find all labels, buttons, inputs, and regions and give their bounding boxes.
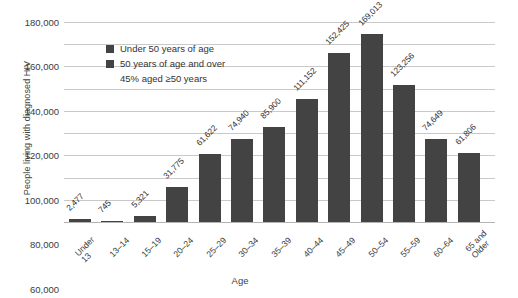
bar xyxy=(263,127,285,222)
bar xyxy=(393,85,415,222)
x-axis-line xyxy=(64,222,495,223)
bar-group: 61,806 xyxy=(453,22,485,222)
x-axis-tick-text: 60–64 xyxy=(432,236,456,260)
bar xyxy=(199,154,221,222)
bar-value-label: 61,622 xyxy=(194,122,219,147)
bar-group: 111,152 xyxy=(291,22,323,222)
x-axis-tick-label: 35–39 xyxy=(258,226,290,244)
y-axis-tick-label: 120,000 xyxy=(25,150,59,161)
bar-group: 152,425 xyxy=(323,22,355,222)
y-axis-tick-label: 80,000 xyxy=(30,239,59,250)
x-axis-tick-label: 55–59 xyxy=(388,226,420,244)
x-axis-tick-text: 50–54 xyxy=(367,236,391,260)
y-axis-tick-label: 160,000 xyxy=(25,61,59,72)
bar xyxy=(425,139,447,222)
x-axis-tick-label: 65 and Older xyxy=(453,226,485,246)
bar-value-label: 111,152 xyxy=(291,65,318,92)
x-axis-tick-text: 20–24 xyxy=(172,236,196,260)
legend: Under 50 years of age 50 years of age an… xyxy=(106,41,225,86)
bar-value-label: 152,425 xyxy=(323,18,351,46)
bar-value-label: 745 xyxy=(96,198,113,215)
bar-group: 2,477 xyxy=(64,22,96,222)
bar-group: 74,940 xyxy=(226,22,258,222)
bar xyxy=(166,187,188,222)
bar-group: 85,900 xyxy=(258,22,290,222)
bar xyxy=(134,216,156,222)
x-axis-tick-label: 40–44 xyxy=(291,226,323,244)
y-axis-tick-label: 100,000 xyxy=(25,194,59,205)
bar-value-label: 169,013 xyxy=(356,0,384,28)
x-axis-tick-label: 15–19 xyxy=(129,226,161,244)
x-axis-tick-label: 30–34 xyxy=(226,226,258,244)
legend-label: 50 years of age and over xyxy=(120,58,225,69)
legend-label: Under 50 years of age xyxy=(120,43,214,54)
y-axis-tick-label: 140,000 xyxy=(25,105,59,116)
x-axis-tick-text: 35–39 xyxy=(270,236,294,260)
x-axis-tick-text: 65 and Older xyxy=(464,229,496,261)
x-axis-tick-text: 25–29 xyxy=(205,236,229,260)
x-axis-tick-text: 55–59 xyxy=(399,236,423,260)
bar xyxy=(101,221,123,222)
bar xyxy=(361,34,383,222)
bar-value-label: 74,649 xyxy=(420,108,445,133)
legend-item-50-and-over: 50 years of age and over xyxy=(106,56,225,71)
x-axis-tick-text: 13–14 xyxy=(108,236,132,260)
bar-group: 74,649 xyxy=(420,22,452,222)
x-axis-tick-label: Under 13 xyxy=(64,226,96,246)
bar-value-label: 123,256 xyxy=(388,51,416,79)
x-axis-tick-label: 50–54 xyxy=(356,226,388,244)
bar-value-label: 61,806 xyxy=(453,122,478,147)
bar-value-label: 31,775 xyxy=(161,156,186,181)
x-axis-tick-label: 13–14 xyxy=(96,226,128,244)
bar xyxy=(69,219,91,222)
bar-value-label: 2,477 xyxy=(64,191,86,213)
hiv-age-bar-chart: People living with diagnosed HIV 020,000… xyxy=(0,0,518,298)
x-axis-tick-label: 45–49 xyxy=(323,226,355,244)
x-axis-tick-label: 20–24 xyxy=(161,226,193,244)
x-axis-tick-text: 30–34 xyxy=(237,236,261,260)
legend-swatch-icon xyxy=(106,60,114,68)
x-axis-tick-label: 60–64 xyxy=(420,226,452,244)
bar-value-label: 5,321 xyxy=(129,188,151,210)
bar xyxy=(296,99,318,223)
x-axis-tick-text: 40–44 xyxy=(302,236,326,260)
legend-annotation: 45% aged ≥50 years xyxy=(106,71,225,86)
x-axis-title: Age xyxy=(0,275,480,286)
bar-group: 169,013 xyxy=(356,22,388,222)
x-axis-tick-label: 25–29 xyxy=(194,226,226,244)
bar-value-label: 74,940 xyxy=(226,108,251,133)
legend-item-under-50: Under 50 years of age xyxy=(106,41,225,56)
bar-value-label: 85,900 xyxy=(258,95,283,120)
x-axis-tick-text: 15–19 xyxy=(140,236,164,260)
bar xyxy=(328,53,350,222)
legend-swatch-icon xyxy=(106,45,114,53)
y-axis-tick-label: 180,000 xyxy=(25,17,59,28)
bar xyxy=(231,139,253,222)
bar-group: 123,256 xyxy=(388,22,420,222)
x-axis-tick-text: 45–49 xyxy=(334,236,358,260)
bar xyxy=(458,153,480,222)
